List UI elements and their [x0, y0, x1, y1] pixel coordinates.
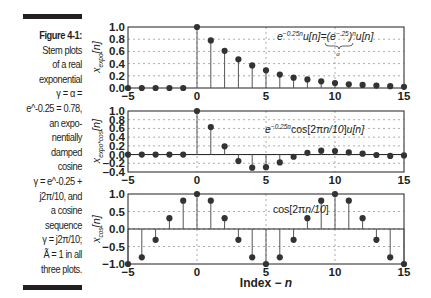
- stem-marker: [373, 82, 379, 88]
- stem-marker: [360, 82, 366, 88]
- stem-marker: [263, 164, 269, 170]
- y-axis-label: xexpo[n]: [89, 40, 105, 74]
- stem-marker: [194, 108, 200, 114]
- x-tick-label: 10: [329, 90, 342, 102]
- stem-marker: [125, 151, 131, 157]
- stem-marker: [153, 237, 159, 243]
- y-axis-label: xcos[n]: [89, 214, 104, 244]
- stem-marker: [346, 198, 352, 204]
- stem-marker: [139, 85, 145, 91]
- stem-marker: [387, 83, 393, 89]
- stem-marker: [332, 191, 338, 197]
- stem-marker: [373, 237, 379, 243]
- underbrace: [325, 43, 353, 49]
- x-tick-label: −5: [121, 174, 135, 186]
- x-axis-label: Index − n: [240, 276, 292, 290]
- stem-marker: [194, 191, 200, 197]
- stem-marker: [180, 85, 186, 91]
- stem-marker: [304, 76, 310, 82]
- stem-marker: [249, 62, 255, 68]
- x-tick-label: 0: [194, 266, 200, 278]
- stem-marker: [180, 151, 186, 157]
- stem-marker: [387, 153, 393, 159]
- stem-marker: [166, 151, 172, 157]
- plot-annotation: e−0.25nu[n]=(e−.25)nu[n]: [277, 30, 374, 42]
- stem-marker: [277, 159, 283, 165]
- x-tick-label: 0: [194, 174, 200, 186]
- y-tick-label: 1.0: [109, 188, 125, 200]
- x-tick-label: 0: [194, 90, 200, 102]
- stem-plot-1: 0.00.20.40.60.81.0−5051015xexpo[n]e−0.25…: [89, 21, 411, 102]
- y-tick-label: 1.0: [109, 105, 125, 116]
- stem-marker: [222, 48, 228, 54]
- stem-marker: [153, 151, 159, 157]
- y-tick-label: −0.5: [102, 241, 125, 253]
- x-tick-label: −5: [121, 90, 135, 102]
- stem-marker: [373, 152, 379, 158]
- x-tick-label: 5: [263, 90, 270, 102]
- y-tick-label: 0.0: [109, 223, 125, 235]
- plot-annotation: cos[2πn/10]: [273, 203, 329, 215]
- stem-marker: [235, 56, 241, 62]
- y-tick-label: 0.4: [109, 58, 126, 70]
- stem-marker: [139, 254, 145, 260]
- x-tick-label: 15: [398, 266, 411, 278]
- stem-marker: [318, 148, 324, 154]
- stem-marker: [332, 148, 338, 154]
- stem-marker: [222, 143, 228, 149]
- stem-marker: [263, 261, 269, 267]
- stem-marker: [235, 237, 241, 243]
- stem-marker: [125, 261, 131, 267]
- stem-marker: [277, 71, 283, 77]
- stem-marker: [318, 78, 324, 84]
- y-tick-label: 0.5: [109, 206, 126, 218]
- stem-marker: [235, 158, 241, 164]
- y-axis-label: xexpo*cos[n]: [89, 118, 105, 164]
- stem-marker: [401, 84, 407, 90]
- x-tick-label: 10: [329, 266, 342, 278]
- stem-marker: [346, 149, 352, 155]
- stem-marker: [166, 215, 172, 221]
- stem-marker: [291, 75, 297, 81]
- x-tick-label: 15: [398, 174, 411, 186]
- y-tick-label: 0.6: [109, 45, 125, 57]
- stem-marker: [401, 152, 407, 158]
- stem-marker: [401, 261, 407, 267]
- y-tick-label: 0.8: [109, 33, 126, 45]
- x-tick-label: −5: [121, 266, 135, 278]
- stem-marker: [180, 198, 186, 204]
- y-tick-label: 1.0: [109, 21, 125, 33]
- stem-plot-2: −0.4−0.20.00.20.40.60.81.0−5051015xexpo*…: [89, 105, 411, 186]
- stem-marker: [249, 254, 255, 260]
- stem-plot-3: −1.0−0.50.00.51.0−5051015xcos[n]cos[2πn/…: [89, 188, 411, 290]
- alpha-label: α: [336, 51, 340, 57]
- y-tick-label: 0.2: [109, 70, 125, 82]
- stem-marker: [277, 254, 283, 260]
- stem-marker: [360, 215, 366, 221]
- stem-marker: [346, 81, 352, 87]
- stem-marker: [139, 151, 145, 157]
- stem-marker: [208, 37, 214, 43]
- stem-marker: [208, 124, 214, 130]
- stem-marker: [360, 151, 366, 157]
- stem-marker: [153, 85, 159, 91]
- x-tick-label: 15: [398, 90, 411, 102]
- stem-marker: [304, 215, 310, 221]
- x-tick-label: 10: [329, 174, 342, 186]
- stem-marker: [291, 154, 297, 160]
- stem-marker: [291, 237, 297, 243]
- x-tick-label: 5: [263, 174, 270, 186]
- stem-marker: [249, 165, 255, 171]
- stem-marker: [263, 67, 269, 73]
- stem-marker: [194, 24, 200, 30]
- plot-annotation: e−0.25ncos[2πn/10]u[n]: [265, 123, 365, 135]
- stem-marker: [125, 85, 131, 91]
- stem-marker: [304, 150, 310, 156]
- stem-marker: [166, 85, 172, 91]
- stem-marker: [387, 254, 393, 260]
- stem-marker: [332, 80, 338, 86]
- stem-marker: [222, 215, 228, 221]
- stem-marker: [208, 198, 214, 204]
- stem-plots-figure: 0.00.20.40.60.81.0−5051015xexpo[n]e−0.25…: [0, 0, 431, 298]
